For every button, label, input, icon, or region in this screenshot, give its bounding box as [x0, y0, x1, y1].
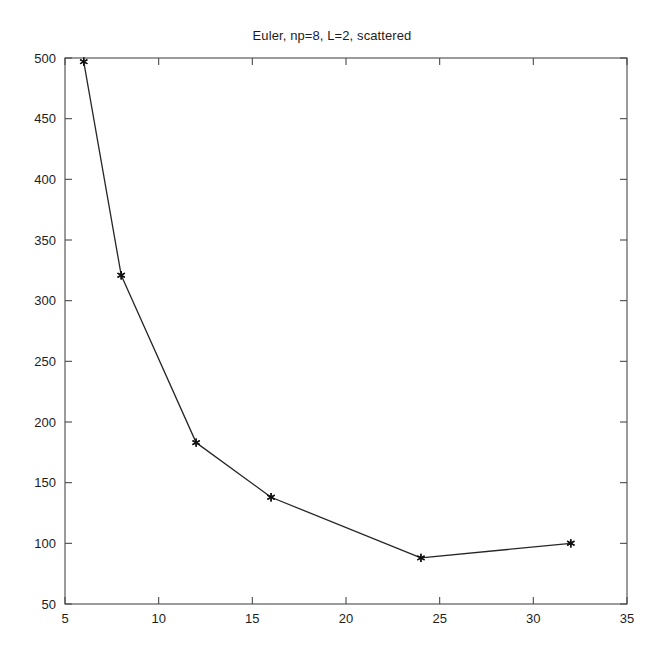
x-tick-label: 10: [151, 611, 165, 626]
y-tick-label: 250: [34, 354, 56, 369]
axis-frame: [65, 58, 627, 604]
x-tick-label: 15: [245, 611, 259, 626]
y-tick-label: 100: [34, 536, 56, 551]
plot-area: 50100150200250300350400450500 5101520253…: [0, 0, 664, 662]
data-point-marker: [80, 57, 87, 65]
figure-canvas: Euler, np=8, L=2, scattered 501001502002…: [0, 0, 664, 662]
y-tick-label: 350: [34, 233, 56, 248]
x-tick-label: 30: [526, 611, 540, 626]
data-point-marker: [267, 493, 274, 501]
x-tick-label: 5: [61, 611, 68, 626]
y-tick-label: 500: [34, 51, 56, 66]
x-tick-label: 25: [432, 611, 446, 626]
y-tick-label: 300: [34, 293, 56, 308]
y-tick-label: 200: [34, 415, 56, 430]
x-axis-tick-labels: 5101520253035: [61, 611, 634, 626]
y-axis-tick-labels: 50100150200250300350400450500: [34, 51, 56, 612]
y-tick-label: 400: [34, 172, 56, 187]
y-tick-label: 150: [34, 475, 56, 490]
x-tick-label: 35: [620, 611, 634, 626]
data-series-line: [84, 62, 571, 558]
data-point-marker: [193, 438, 200, 446]
y-tick-label: 450: [34, 111, 56, 126]
axis-tick-marks: [65, 58, 627, 604]
y-tick-label: 50: [42, 597, 56, 612]
data-series-markers: [80, 57, 574, 562]
data-point-marker: [118, 271, 125, 279]
x-tick-label: 20: [339, 611, 353, 626]
